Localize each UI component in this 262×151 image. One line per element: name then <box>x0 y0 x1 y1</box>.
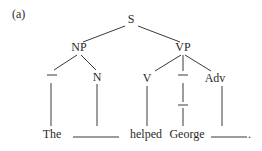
sentence-period: . <box>248 127 251 141</box>
edge-vp-adv <box>185 55 211 71</box>
node-v: V <box>143 71 152 85</box>
edge-s-vp <box>138 26 180 42</box>
node-s: S <box>128 12 135 26</box>
syntax-tree-diagram: (a) S NP N VP V Adv The helped George . <box>0 0 262 151</box>
node-vp: VP <box>175 40 191 54</box>
word-george: George <box>169 127 204 141</box>
edge-s-np <box>83 26 125 42</box>
word-the: The <box>43 127 62 141</box>
node-np: NP <box>71 40 87 54</box>
word-helped: helped <box>130 127 162 141</box>
node-n: N <box>93 70 102 84</box>
edge-vp-v <box>155 55 181 71</box>
figure-label: (a) <box>12 7 25 21</box>
node-adv: Adv <box>205 71 226 85</box>
edge-np-n <box>81 55 96 70</box>
edge-np-det <box>54 55 77 70</box>
